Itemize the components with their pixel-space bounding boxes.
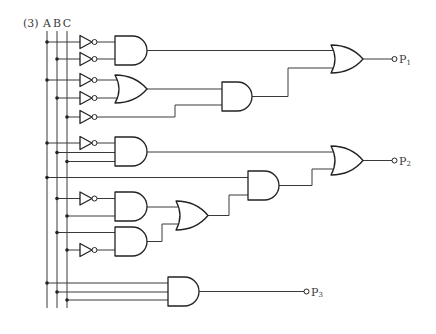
input-label-b: B bbox=[53, 17, 61, 30]
not-gate-2 bbox=[80, 53, 97, 66]
not-gate-icon bbox=[80, 192, 92, 205]
and-gate-1 bbox=[115, 36, 147, 65]
not-gate-4 bbox=[80, 92, 97, 105]
output-terminal-p3 bbox=[304, 289, 309, 294]
not-gate-icon bbox=[80, 244, 92, 257]
junction-dot bbox=[45, 78, 49, 82]
inversion-bubble bbox=[92, 96, 97, 101]
junction-dot bbox=[65, 115, 69, 119]
or-gate-p1 bbox=[331, 45, 363, 73]
wire-not5-to-and2 bbox=[97, 105, 223, 117]
junction-dot bbox=[55, 57, 59, 61]
not-gate-icon bbox=[80, 36, 92, 49]
output-label-p2: P2 bbox=[399, 155, 411, 169]
wire-and2-to-or-p1 bbox=[252, 68, 335, 97]
and-gate-4 bbox=[115, 192, 147, 221]
inversion-bubble bbox=[92, 40, 97, 45]
junction-dot bbox=[65, 214, 69, 218]
inversion-bubble bbox=[92, 196, 97, 201]
inversion-bubble bbox=[92, 57, 97, 62]
inversion-bubble bbox=[92, 78, 97, 83]
or-gate-3 bbox=[176, 201, 208, 230]
junction-dot bbox=[55, 231, 59, 235]
junction-dot bbox=[45, 40, 49, 44]
problem-number: (3) bbox=[23, 17, 39, 30]
inversion-bubble bbox=[92, 115, 97, 120]
junction-dot bbox=[65, 160, 69, 164]
output-label-p1-sub: 1 bbox=[406, 59, 410, 67]
and-gate-6 bbox=[248, 171, 279, 200]
not-gate-icon bbox=[80, 92, 92, 105]
and-gate-3 bbox=[115, 137, 147, 166]
and-gate-5 bbox=[115, 227, 147, 256]
output-terminal-p1 bbox=[392, 57, 397, 62]
inversion-bubble bbox=[92, 141, 97, 146]
input-label-a: A bbox=[42, 17, 52, 30]
junction-dot bbox=[45, 176, 49, 180]
junction-dot bbox=[55, 290, 59, 294]
wire-and6-to-or-p2 bbox=[279, 169, 335, 186]
output-terminal-p2 bbox=[392, 158, 397, 163]
or-gate-p2 bbox=[331, 146, 363, 175]
not-gate-icon bbox=[80, 111, 92, 124]
not-gate-7 bbox=[80, 192, 97, 205]
not-gate-1 bbox=[80, 36, 97, 49]
output-label-p1: P1 bbox=[399, 53, 411, 67]
output-label-p3: P3 bbox=[311, 286, 323, 300]
circuit-svg: (3) A B C bbox=[0, 0, 436, 334]
junction-dot bbox=[55, 96, 59, 100]
junction-dot bbox=[55, 151, 59, 155]
junction-dot bbox=[55, 197, 59, 201]
logic-circuit-diagram: (3) A B C bbox=[0, 0, 436, 334]
input-label-c: C bbox=[63, 17, 71, 30]
or-gate-1 bbox=[115, 75, 147, 103]
not-gate-3 bbox=[80, 74, 97, 87]
wire-and5-to-or3 bbox=[147, 224, 180, 242]
junction-dot bbox=[45, 281, 49, 285]
output-label-p2-sub: 2 bbox=[406, 160, 410, 168]
wire-or3-to-and6 bbox=[208, 195, 249, 216]
inversion-bubble bbox=[92, 248, 97, 253]
not-gate-5 bbox=[80, 111, 97, 124]
not-gate-6 bbox=[80, 137, 97, 150]
and-gate-7 bbox=[168, 277, 199, 306]
not-gate-icon bbox=[80, 74, 92, 87]
output-label-p3-sub: 3 bbox=[318, 291, 322, 299]
not-gate-icon bbox=[80, 137, 92, 150]
not-gate-8 bbox=[80, 244, 97, 257]
not-gate-icon bbox=[80, 53, 92, 66]
junction-dot bbox=[65, 298, 69, 302]
and-gate-2 bbox=[222, 82, 252, 111]
junction-dot bbox=[45, 141, 49, 145]
input-bus bbox=[47, 31, 67, 308]
junction-dot bbox=[65, 248, 69, 252]
